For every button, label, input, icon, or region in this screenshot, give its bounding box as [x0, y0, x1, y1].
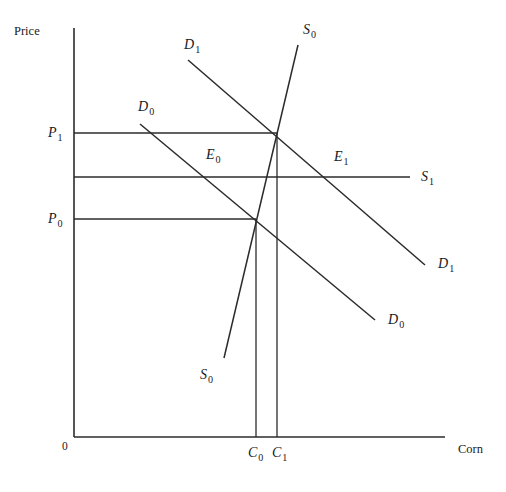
curve-label-s1-base: S — [421, 169, 428, 184]
curve-label-s1: S1 — [421, 170, 433, 184]
curve-label-d1-lower-sub: 1 — [449, 263, 454, 274]
quantity-label-c1-base: C — [272, 445, 281, 460]
plot-canvas — [0, 0, 506, 492]
price-label-p0: P0 — [48, 212, 62, 226]
equilibrium-label-e0-sub: 0 — [216, 154, 221, 165]
curve-d1-demand — [188, 60, 425, 265]
curve-label-s0-lower: S0 — [200, 368, 212, 382]
price-label-p1-sub: 1 — [58, 132, 63, 143]
curve-label-s0-lower-base: S — [200, 367, 207, 382]
curve-label-d0-upper-base: D — [138, 99, 148, 114]
x-axis-title: Corn — [458, 443, 483, 456]
curve-label-s1-sub: 1 — [429, 176, 434, 187]
quantity-label-c0-sub: 0 — [258, 452, 263, 463]
price-label-p1: P1 — [48, 126, 62, 140]
curve-s0-supply — [224, 45, 298, 358]
supply-demand-figure: Price Corn 0 P1 P0 C0 C1 E0 E1 S0 S0 S1 … — [0, 0, 506, 492]
price-label-p1-base: P — [48, 125, 57, 140]
equilibrium-label-e1-sub: 1 — [344, 156, 349, 167]
curve-label-d1-upper: D1 — [184, 38, 199, 52]
curve-label-s0-upper: S0 — [303, 23, 315, 37]
curve-label-d0-upper-sub: 0 — [149, 106, 154, 117]
price-label-p0-sub: 0 — [58, 218, 63, 229]
curve-label-d1-lower-base: D — [438, 256, 448, 271]
quantity-label-c0-base: C — [248, 445, 257, 460]
curve-label-d1-upper-base: D — [184, 37, 194, 52]
price-label-p0-base: P — [48, 211, 57, 226]
curve-label-d0-lower-base: D — [388, 312, 398, 327]
origin-label: 0 — [62, 441, 68, 453]
curve-label-s0-upper-sub: 0 — [311, 29, 316, 40]
quantity-label-c0: C0 — [248, 446, 262, 460]
equilibrium-label-e0: E0 — [206, 148, 220, 162]
curve-label-d0-lower-sub: 0 — [399, 319, 404, 330]
y-axis-title: Price — [14, 25, 40, 38]
curve-label-s0-upper-base: S — [303, 22, 310, 37]
equilibrium-label-e1-base: E — [334, 149, 343, 164]
curve-label-d1-lower: D1 — [438, 257, 453, 271]
curve-label-d0-upper: D0 — [138, 100, 153, 114]
quantity-label-c1-sub: 1 — [282, 452, 287, 463]
curve-label-d0-lower: D0 — [388, 313, 403, 327]
equilibrium-label-e1: E1 — [334, 150, 348, 164]
quantity-label-c1: C1 — [272, 446, 286, 460]
curve-label-d1-upper-sub: 1 — [195, 44, 200, 55]
curve-label-s0-lower-sub: 0 — [208, 374, 213, 385]
equilibrium-label-e0-base: E — [206, 147, 215, 162]
